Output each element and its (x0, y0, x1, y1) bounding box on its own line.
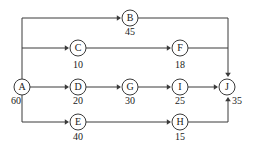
node-j[interactable]: J (219, 79, 235, 95)
node-label-d: D (74, 81, 81, 92)
arrowhead-c-to-f (167, 45, 171, 51)
node-label-g: G (126, 81, 133, 92)
node-label-j: J (225, 81, 229, 92)
activity-network-diagram: ABCDEFGHIJ 60451020401830152535 (0, 0, 264, 155)
arrowhead-b-to-j (225, 73, 231, 77)
node-label-b: B (127, 12, 134, 23)
node-label-i: I (178, 81, 181, 92)
arrowhead-a-to-b (117, 15, 121, 21)
arrowhead-i-to-j (214, 84, 218, 90)
node-label-a: A (18, 81, 26, 92)
node-duration-g: 30 (125, 95, 135, 106)
node-duration-a: 60 (11, 95, 21, 106)
arrowhead-d-to-g (117, 84, 121, 90)
node-f[interactable]: F (172, 40, 188, 56)
node-g[interactable]: G (122, 79, 138, 95)
arrowhead-g-to-i (167, 84, 171, 90)
arrowhead-a-to-e (65, 119, 69, 125)
node-duration-i: 25 (175, 95, 185, 106)
node-a[interactable]: A (14, 79, 30, 95)
node-duration-d: 20 (73, 95, 83, 106)
node-label-f: F (177, 42, 183, 53)
node-e[interactable]: E (70, 114, 86, 130)
node-duration-e: 40 (73, 131, 83, 142)
arrowhead-a-to-c (65, 45, 69, 51)
arrowhead-h-to-j (225, 97, 231, 101)
node-duration-j: 35 (232, 95, 242, 106)
node-duration-f: 18 (175, 59, 185, 70)
node-label-e: E (75, 116, 81, 127)
node-c[interactable]: C (70, 40, 86, 56)
node-duration-b: 45 (125, 26, 135, 37)
node-duration-h: 15 (175, 131, 185, 142)
arrowhead-a-to-d (65, 84, 69, 90)
node-h[interactable]: H (172, 114, 188, 130)
node-i[interactable]: I (172, 79, 188, 95)
edge-a-to-e (22, 95, 67, 122)
node-label-h: H (176, 116, 183, 127)
arrowhead-e-to-h (167, 119, 171, 125)
node-d[interactable]: D (70, 79, 86, 95)
node-label-c: C (75, 42, 82, 53)
arrowheads-layer (65, 15, 231, 125)
node-b[interactable]: B (122, 10, 138, 26)
network-graph-canvas: ABCDEFGHIJ 60451020401830152535 (0, 0, 264, 155)
edge-h-to-j (188, 100, 228, 122)
node-duration-c: 10 (73, 59, 83, 70)
